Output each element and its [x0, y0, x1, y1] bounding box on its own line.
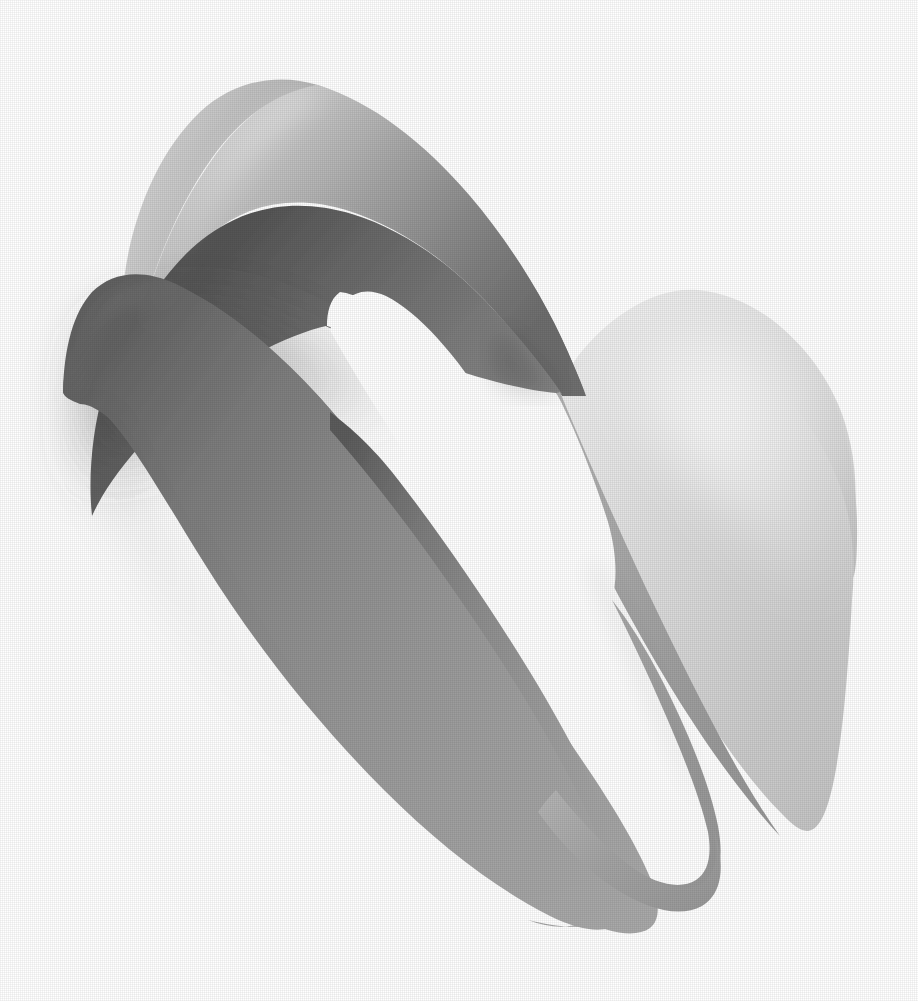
figure-canvas: Twisted band (Mobius-like ruled surface)…: [0, 0, 918, 1001]
mobius-strip-illustration: [0, 0, 918, 1001]
